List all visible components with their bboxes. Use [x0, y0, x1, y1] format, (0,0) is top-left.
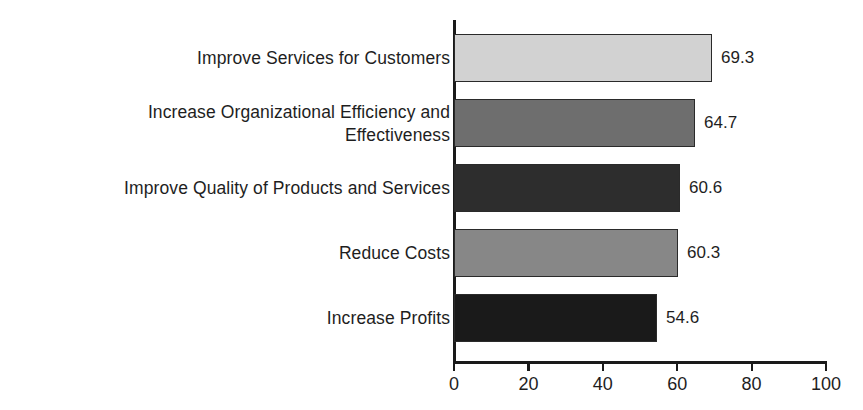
- x-axis-tick-40: [602, 361, 604, 371]
- x-axis-line: [453, 361, 827, 364]
- category-axis-labels: Improve Services for Customers Increase …: [0, 0, 450, 410]
- bar-improve-quality-of-products-and-services: [454, 164, 680, 212]
- plot-area: 0 20 40 60 80 100 69.3 64.7 60.6 60.3 54…: [453, 0, 863, 410]
- category-label-reduce-costs: Reduce Costs: [0, 242, 450, 265]
- bar-value-increase-organizational-efficiency-and-effectiveness: 64.7: [704, 113, 737, 133]
- category-label-increase-organizational-efficiency-and-effectiveness: Increase Organizational Efficiency and E…: [0, 101, 450, 147]
- x-axis-tick-0: [453, 361, 455, 371]
- bar-reduce-costs: [454, 229, 678, 277]
- category-label-improve-quality-of-products-and-services: Improve Quality of Products and Services: [0, 177, 450, 200]
- bar-chart: Improve Services for Customers Increase …: [0, 0, 863, 410]
- x-axis-tick-label-20: 20: [518, 373, 538, 395]
- bar-value-improve-services-for-customers: 69.3: [721, 48, 754, 68]
- bar-increase-profits: [454, 294, 657, 342]
- x-axis-tick-label-100: 100: [811, 373, 841, 395]
- bar-improve-services-for-customers: [454, 34, 712, 82]
- x-axis-tick-label-80: 80: [742, 373, 762, 395]
- bar-increase-organizational-efficiency-and-effectiveness: [454, 99, 695, 147]
- x-axis-tick-label-40: 40: [593, 373, 613, 395]
- category-label-increase-profits: Increase Profits: [0, 307, 450, 330]
- x-axis-tick-80: [751, 361, 753, 371]
- x-axis-tick-60: [676, 361, 678, 371]
- bar-value-improve-quality-of-products-and-services: 60.6: [689, 178, 722, 198]
- x-axis-tick-100: [825, 361, 827, 371]
- x-axis-tick-20: [527, 361, 529, 371]
- bar-value-increase-profits: 54.6: [666, 308, 699, 328]
- x-axis-tick-label-60: 60: [667, 373, 687, 395]
- x-axis-tick-label-0: 0: [449, 373, 459, 395]
- category-label-improve-services-for-customers: Improve Services for Customers: [0, 47, 450, 70]
- bar-value-reduce-costs: 60.3: [687, 243, 720, 263]
